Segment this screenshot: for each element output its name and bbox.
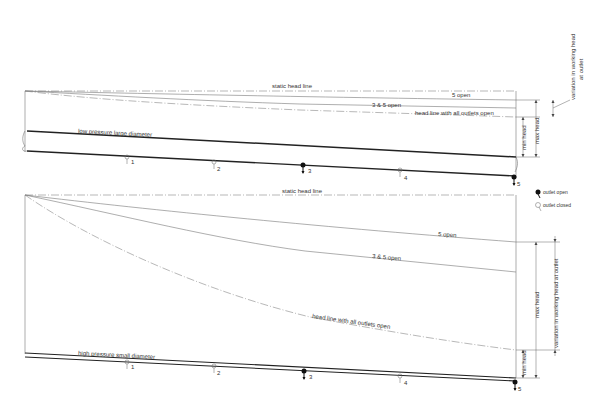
bottom-all-open-label: head line with all outlets open	[312, 313, 391, 330]
svg-text:2: 2	[217, 166, 221, 172]
top-variation-leader	[553, 100, 570, 108]
outlet-open-icon	[512, 175, 517, 180]
svg-text:4: 4	[404, 175, 408, 181]
svg-text:outlet open: outlet open	[543, 189, 568, 195]
top-three-five-open-label: 3 & 5 open	[372, 102, 401, 108]
bottom-all-open-line	[25, 195, 516, 350]
top-five-open-line	[25, 91, 516, 100]
svg-text:5: 5	[518, 386, 522, 392]
top-outlet-2: 2	[212, 160, 221, 172]
svg-text:4: 4	[404, 380, 408, 386]
svg-text:3: 3	[308, 168, 312, 174]
bottom-outlet-3: 3	[302, 369, 314, 381]
bottom-dimensions: min head max head variation in working h…	[516, 236, 560, 378]
top-all-open-label: head line with all outlets open	[415, 110, 494, 116]
outlet-open-icon	[302, 369, 307, 374]
bottom-five-open-label: 5 open	[438, 231, 457, 238]
top-outlet-5: 5	[512, 175, 522, 188]
bottom-pipe-label: high pressure small diameter	[78, 350, 155, 360]
outlet-open-icon	[513, 380, 518, 385]
top-variation-label-2: at outlet	[578, 58, 584, 80]
outlet-closed-icon	[398, 374, 402, 378]
top-min-head-label: min head	[521, 125, 527, 150]
top-static-head-label: static head line	[272, 83, 313, 89]
svg-text:1: 1	[131, 159, 135, 165]
top-pipe-bottom-edge	[27, 151, 516, 176]
top-dimensions: min head max head variation in working h…	[516, 34, 584, 157]
legend: outlet open outlet closed	[536, 189, 572, 211]
top-max-head-label: max head	[534, 118, 540, 144]
top-diagram: static head line 5 open 3 & 5 open head …	[23, 34, 584, 187]
top-five-open-label: 5 open	[452, 92, 470, 98]
legend-outlet-closed: outlet closed	[536, 202, 572, 211]
outlet-open-icon	[536, 190, 541, 195]
pipeline-head-diagram: static head line 5 open 3 & 5 open head …	[0, 0, 604, 407]
bottom-outlet-5: 5	[513, 380, 523, 393]
svg-text:1: 1	[131, 364, 135, 370]
bottom-three-five-open-label: 3 & 5 open	[372, 253, 401, 262]
bottom-static-head-label: static head line	[282, 188, 323, 194]
svg-text:3: 3	[309, 374, 313, 380]
bottom-min-head-label: min head	[521, 350, 527, 375]
bottom-variation-label: variation in working head at outlet	[553, 258, 559, 348]
svg-text:outlet closed: outlet closed	[543, 202, 571, 208]
bottom-pipe-bottom-edge	[25, 357, 516, 381]
outlet-open-icon	[301, 163, 306, 168]
svg-text:5: 5	[517, 181, 521, 187]
top-outlet-3: 3	[301, 163, 313, 175]
outlet-closed-icon	[536, 203, 541, 208]
legend-outlet-open: outlet open	[536, 189, 568, 198]
top-three-five-open-line	[25, 91, 516, 108]
top-pipe-label: low pressure large diameter	[78, 128, 152, 138]
svg-text:2: 2	[217, 370, 221, 376]
bottom-diagram: static head line 5 open 3 & 5 open head …	[25, 188, 560, 392]
bottom-max-head-label: max head	[534, 292, 540, 318]
top-variation-label: variation in working head	[570, 34, 576, 100]
